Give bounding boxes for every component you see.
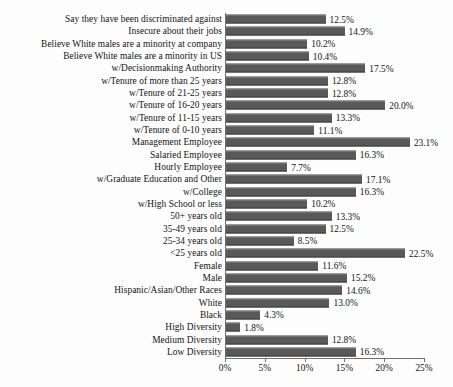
bar	[226, 273, 347, 282]
bar	[226, 236, 294, 245]
bar-row: Management Employee23.1%	[0, 136, 453, 148]
bar	[226, 187, 356, 196]
bar	[226, 286, 342, 295]
bar	[226, 347, 356, 356]
bar-value-label: 10.4%	[313, 51, 337, 61]
bar-row: w/College16.3%	[0, 186, 453, 198]
category-label: <25 years old	[170, 248, 222, 258]
bar-value-label: 12.8%	[332, 335, 356, 345]
bar	[226, 15, 326, 24]
x-tick-label: 5%	[259, 363, 272, 374]
bar-row: Salaried Employee16.3%	[0, 149, 453, 161]
category-label: Black	[200, 310, 222, 320]
bar	[226, 27, 345, 36]
bar	[226, 163, 287, 172]
bar-value-label: 13.3%	[336, 211, 360, 221]
value-axis-line	[225, 358, 425, 359]
bar-and-value: 11.6%	[226, 261, 346, 270]
bar	[226, 64, 365, 73]
bar-row: Black4.3%	[0, 309, 453, 321]
bar-row: High Diversity1.8%	[0, 321, 453, 333]
bar-and-value: 16.3%	[226, 347, 384, 356]
bar	[226, 212, 332, 221]
bar-value-label: 17.1%	[366, 174, 390, 184]
bar-and-value: 17.1%	[226, 175, 390, 184]
bar-value-label: 11.1%	[318, 125, 342, 135]
bar-and-value: 10.2%	[226, 199, 335, 208]
bar-value-label: 12.5%	[330, 224, 354, 234]
x-tick-mark	[265, 358, 266, 362]
bar-row: w/High School or less10.2%	[0, 198, 453, 210]
x-tick-label: 15%	[336, 363, 353, 374]
bar-value-label: 22.5%	[409, 248, 433, 258]
bar-row: Say they have been discriminated against…	[0, 13, 453, 25]
x-tick-mark	[225, 358, 226, 362]
bar-and-value: 8.5%	[226, 236, 317, 245]
bar	[226, 150, 356, 159]
category-label: High Diversity	[165, 322, 222, 332]
category-label: w/College	[183, 187, 222, 197]
bar-value-label: 16.3%	[360, 187, 384, 197]
bar-value-label: 1.8%	[244, 322, 264, 332]
bar-value-label: 13.3%	[336, 113, 360, 123]
category-label: Management Employee	[132, 137, 222, 147]
bar-and-value: 23.1%	[226, 138, 438, 147]
bar	[226, 101, 385, 110]
bar-row: <25 years old22.5%	[0, 247, 453, 259]
bar-row: w/Decisionmaking Authority17.5%	[0, 62, 453, 74]
bar	[226, 323, 240, 332]
x-tick-mark	[344, 358, 345, 362]
x-tick-label: 25%	[415, 363, 432, 374]
bar-and-value: 14.6%	[226, 286, 370, 295]
bar-and-value: 22.5%	[226, 249, 433, 258]
bar-and-value: 11.1%	[226, 126, 342, 135]
x-tick-label: 20%	[376, 363, 393, 374]
bar-row: Female11.6%	[0, 259, 453, 271]
bar-row: w/Tenure of 0-10 years11.1%	[0, 124, 453, 136]
bar-value-label: 14.6%	[346, 285, 370, 295]
category-label: 25-34 years old	[163, 236, 222, 246]
bar-and-value: 16.3%	[226, 150, 384, 159]
bar	[226, 52, 309, 61]
bar-and-value: 10.2%	[226, 39, 335, 48]
bar	[226, 335, 328, 344]
bar	[226, 310, 260, 319]
category-label: w/Tenure of 11-15 years	[129, 113, 222, 123]
bar-and-value: 12.8%	[226, 76, 356, 85]
bar-value-label: 12.8%	[332, 76, 356, 86]
bar-row: w/Tenure of more than 25 years12.8%	[0, 75, 453, 87]
bar	[226, 126, 314, 135]
bar-and-value: 13.0%	[226, 298, 358, 307]
bar-row: w/Tenure of 11-15 years13.3%	[0, 112, 453, 124]
bar-chart: Say they have been discriminated against…	[0, 0, 453, 387]
bar-row: 50+ years old13.3%	[0, 210, 453, 222]
category-label: w/Tenure of more than 25 years	[101, 76, 222, 86]
category-label: Believe White males are a minority at co…	[41, 39, 222, 49]
bar-and-value: 13.3%	[226, 113, 360, 122]
bar-and-value: 12.5%	[226, 15, 354, 24]
category-label: w/Tenure of 21-25 years	[129, 88, 222, 98]
bar-and-value: 7.7%	[226, 163, 311, 172]
category-label: Insecure about their jobs	[128, 26, 222, 36]
bar-row: Insecure about their jobs14.9%	[0, 25, 453, 37]
category-label: 35-49 years old	[163, 224, 222, 234]
bar-value-label: 12.8%	[332, 88, 356, 98]
bar-row: 35-49 years old12.5%	[0, 222, 453, 234]
bar	[226, 199, 307, 208]
bar-value-label: 16.3%	[360, 150, 384, 160]
category-label: White	[199, 298, 222, 308]
bar-and-value: 13.3%	[226, 212, 360, 221]
bar-row: w/Tenure of 16-20 years20.0%	[0, 99, 453, 111]
bar-row: w/Graduate Education and Other17.1%	[0, 173, 453, 185]
bar-and-value: 16.3%	[226, 187, 384, 196]
bar-value-label: 10.2%	[311, 39, 335, 49]
bar-value-label: 17.5%	[369, 63, 393, 73]
bar-and-value: 12.8%	[226, 89, 356, 98]
x-tick-mark	[424, 358, 425, 362]
bar-value-label: 15.2%	[351, 273, 375, 283]
bar-and-value: 4.3%	[226, 310, 284, 319]
bar	[226, 89, 328, 98]
bar-row: Medium Diversity12.8%	[0, 333, 453, 345]
category-label: Male	[203, 273, 222, 283]
x-tick-label: 0%	[219, 363, 232, 374]
